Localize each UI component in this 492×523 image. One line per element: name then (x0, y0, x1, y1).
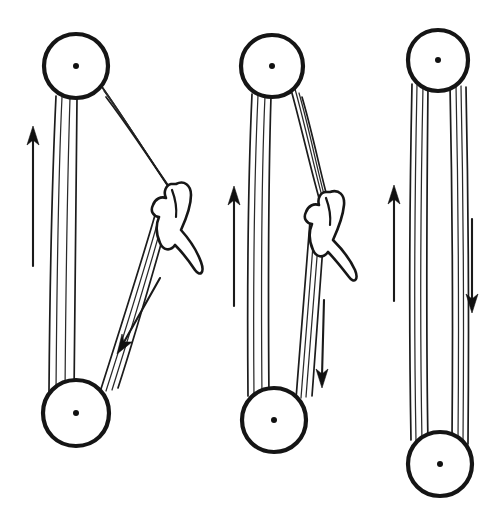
pulley-hub-dot (73, 63, 79, 69)
panel-1-bottom-pulley (43, 380, 109, 446)
panel-3-bottom-pulley (408, 432, 472, 496)
panel-2-bottom-pulley (242, 388, 306, 452)
pulley-hub-dot (437, 461, 443, 467)
pulley-hub-dot (73, 410, 79, 416)
pulley-hub-dot (435, 57, 441, 63)
panel-2-top-pulley (241, 35, 303, 97)
panel-3-top-pulley (408, 30, 468, 91)
panel-1-top-pulley (44, 34, 108, 98)
pulley-hub-dot (271, 417, 277, 423)
figure-root: Belt drive deflection sequence Hand-draw… (0, 0, 492, 523)
belt-drive-illustration (0, 0, 492, 523)
pulley-hub-dot (269, 63, 275, 69)
